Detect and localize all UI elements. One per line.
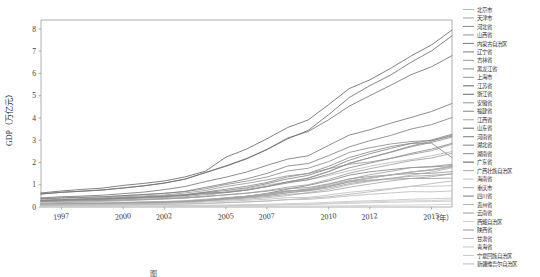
y-tick-label: 0: [32, 203, 36, 212]
legend: 北京市天津市河北省山西省内蒙古自治区辽宁省吉林省黑龙江省上海市江苏省浙江省安徽省…: [463, 6, 518, 268]
legend-label: 云南省: [477, 209, 493, 217]
legend-label: 海南省: [477, 175, 493, 183]
y-tick-label: 3: [32, 136, 36, 145]
legend-label: 浙江省: [477, 90, 493, 98]
x-tick-label: 1997: [53, 211, 70, 222]
legend-label: 山东省: [477, 124, 493, 132]
x-tick-label: 2002: [156, 211, 173, 222]
legend-label: 辽宁省: [477, 48, 493, 56]
legend-label: 上海市: [477, 73, 493, 81]
legend-label: 山西省: [477, 31, 493, 39]
x-tick-label: 2000: [115, 211, 132, 222]
y-tick-label: 7: [32, 47, 36, 56]
legend-label: 广东省: [477, 158, 493, 166]
x-tick-label: 2010: [320, 211, 337, 222]
series-line: [41, 30, 452, 193]
legend-label: 福建省: [477, 107, 493, 115]
x-tick-label: 2005: [217, 211, 234, 222]
y-tick-label: 8: [32, 25, 36, 34]
gdp-line-chart: 012345678 199720002002200520072010201220…: [0, 0, 540, 277]
legend-label: 江西省: [477, 116, 493, 124]
x-tick-label: 2007: [258, 211, 275, 222]
y-tick-label: 2: [32, 158, 36, 167]
y-tick-label: 6: [32, 69, 36, 78]
legend-label: 湖南省: [477, 150, 493, 158]
y-tick-label: 1: [32, 180, 36, 189]
x-tick-label: 2012: [361, 211, 378, 222]
legend-label: 天津市: [477, 14, 493, 22]
series-line: [41, 135, 452, 201]
y-axis-ticks: 012345678: [32, 25, 41, 212]
legend-label: 湖北省: [477, 141, 493, 149]
legend-label: 陕西省: [477, 226, 493, 234]
x-axis-unit-label: （年）: [432, 213, 453, 223]
legend-label: 江苏省: [477, 82, 493, 90]
legend-label: 西藏自治区: [477, 218, 503, 226]
legend-label: 重庆市: [477, 184, 493, 192]
figure-caption: 图: [150, 270, 157, 277]
series-line: [41, 56, 452, 194]
legend-label: 安徽省: [477, 99, 493, 107]
legend-label: 吉林省: [477, 56, 493, 64]
legend-label: 北京市: [477, 6, 493, 14]
series-lines: [41, 30, 452, 207]
x-axis-ticks: 19972000200220052007201020122015: [53, 207, 440, 222]
legend-label: 贵州省: [477, 201, 493, 209]
series-line: [41, 153, 452, 201]
y-axis-title: GDP（万亿元）: [4, 90, 14, 146]
legend-label: 河北省: [477, 23, 493, 31]
legend-label: 黑龙江省: [477, 65, 498, 73]
legend-label: 河南省: [477, 133, 493, 141]
legend-label: 广西壮族自治区: [477, 167, 513, 175]
legend-label: 新疆维吾尔自治区: [477, 260, 518, 268]
y-tick-label: 5: [32, 91, 36, 100]
legend-label: 四川省: [477, 192, 493, 200]
y-tick-label: 4: [32, 114, 36, 123]
legend-label: 甘肃省: [477, 235, 493, 243]
legend-label: 青海省: [477, 243, 493, 251]
legend-label: 宁夏回族自治区: [477, 252, 513, 260]
legend-label: 内蒙古自治区: [477, 40, 508, 48]
series-line: [41, 36, 452, 194]
